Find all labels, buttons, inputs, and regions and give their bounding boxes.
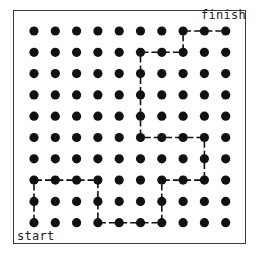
grid-dot [72, 218, 81, 227]
grid-dot [179, 112, 188, 121]
grid-dot [115, 112, 124, 121]
grid-dot [115, 176, 124, 185]
grid-dot [72, 48, 81, 57]
grid-dot [157, 197, 166, 206]
grid-dot [29, 26, 38, 35]
grid-dot [221, 90, 230, 99]
grid-dot [115, 26, 124, 35]
grid-dot [29, 176, 38, 185]
grid-dot [179, 197, 188, 206]
grid-dot [115, 69, 124, 78]
grid-dot [179, 26, 188, 35]
grid-dot [115, 133, 124, 142]
grid-dot [136, 218, 145, 227]
start-label: start [17, 229, 55, 243]
grid-dot [29, 218, 38, 227]
grid-dot [72, 90, 81, 99]
grid-dot [29, 48, 38, 57]
grid-dot [51, 154, 60, 163]
grid-dot [179, 90, 188, 99]
grid-dot [93, 218, 102, 227]
grid-dot [51, 69, 60, 78]
grid-dot [51, 112, 60, 121]
grid-dot [200, 112, 209, 121]
grid-dots [29, 26, 230, 227]
grid-dot [221, 218, 230, 227]
maze-path [34, 31, 226, 223]
grid-dot [221, 69, 230, 78]
grid-dot [221, 133, 230, 142]
dot-grid-diagram [0, 0, 257, 258]
grid-dot [221, 197, 230, 206]
grid-dot [136, 90, 145, 99]
grid-dot [29, 197, 38, 206]
grid-dot [93, 48, 102, 57]
grid-dot [221, 154, 230, 163]
grid-dot [29, 154, 38, 163]
grid-dot [93, 133, 102, 142]
grid-dot [221, 26, 230, 35]
grid-dot [93, 112, 102, 121]
grid-dot [93, 69, 102, 78]
grid-dot [179, 218, 188, 227]
grid-dot [115, 154, 124, 163]
grid-dot [115, 48, 124, 57]
grid-dot [72, 154, 81, 163]
grid-dot [221, 176, 230, 185]
grid-dot [115, 90, 124, 99]
grid-dot [29, 69, 38, 78]
grid-dot [200, 90, 209, 99]
grid-dot [29, 112, 38, 121]
grid-dot [157, 218, 166, 227]
grid-dot [136, 48, 145, 57]
grid-dot [221, 112, 230, 121]
grid-dot [157, 26, 166, 35]
grid-dot [157, 69, 166, 78]
grid-dot [179, 154, 188, 163]
grid-dot [157, 48, 166, 57]
grid-dot [200, 26, 209, 35]
grid-dot [136, 154, 145, 163]
grid-dot [179, 176, 188, 185]
grid-dot [51, 176, 60, 185]
grid-dot [200, 197, 209, 206]
grid-dot [200, 176, 209, 185]
grid-dot [200, 69, 209, 78]
grid-dot [29, 133, 38, 142]
grid-dot [93, 197, 102, 206]
grid-dot [93, 26, 102, 35]
grid-dot [72, 26, 81, 35]
grid-dot [136, 176, 145, 185]
grid-dot [115, 197, 124, 206]
grid-dot [200, 48, 209, 57]
grid-dot [51, 197, 60, 206]
grid-dot [136, 112, 145, 121]
grid-dot [136, 133, 145, 142]
grid-dot [221, 48, 230, 57]
grid-dot [72, 69, 81, 78]
grid-dot [51, 133, 60, 142]
grid-dot [51, 218, 60, 227]
grid-dot [51, 26, 60, 35]
grid-dot [72, 112, 81, 121]
grid-dot [51, 90, 60, 99]
grid-dot [136, 197, 145, 206]
grid-dot [72, 133, 81, 142]
grid-dot [93, 176, 102, 185]
grid-dot [157, 90, 166, 99]
grid-dot [179, 48, 188, 57]
grid-dot [93, 154, 102, 163]
grid-dot [179, 133, 188, 142]
grid-dot [72, 176, 81, 185]
finish-label: finish [201, 8, 246, 22]
grid-dot [29, 90, 38, 99]
grid-dot [93, 90, 102, 99]
grid-dot [136, 26, 145, 35]
grid-dot [200, 154, 209, 163]
grid-dot [179, 69, 188, 78]
grid-dot [157, 112, 166, 121]
grid-dot [200, 133, 209, 142]
grid-dot [72, 197, 81, 206]
grid-dot [115, 218, 124, 227]
grid-dot [136, 69, 145, 78]
